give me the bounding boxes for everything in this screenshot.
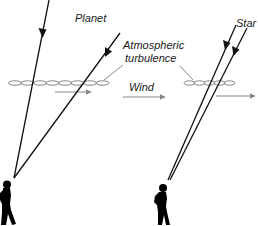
planet-ray-1 <box>14 0 49 178</box>
turbulence-band-left <box>9 81 110 85</box>
observer-silhouette-left <box>0 181 16 226</box>
planet-ray-2 <box>14 33 120 178</box>
planet-label: Planet <box>75 13 106 24</box>
turbulence-label-line2: turbulence <box>125 53 176 64</box>
diagram-canvas <box>0 0 258 225</box>
planet-ray-1-arrowhead-icon <box>39 28 47 38</box>
turbulence-leader-right <box>180 66 193 80</box>
turbulence-leader-left <box>104 65 123 80</box>
wind-label: Wind <box>129 82 154 93</box>
planet-scene <box>0 0 120 225</box>
turbulence-label-line1: Atmospheric <box>123 40 184 51</box>
star-label: Star <box>236 18 256 29</box>
observer-silhouette-right <box>154 184 170 225</box>
